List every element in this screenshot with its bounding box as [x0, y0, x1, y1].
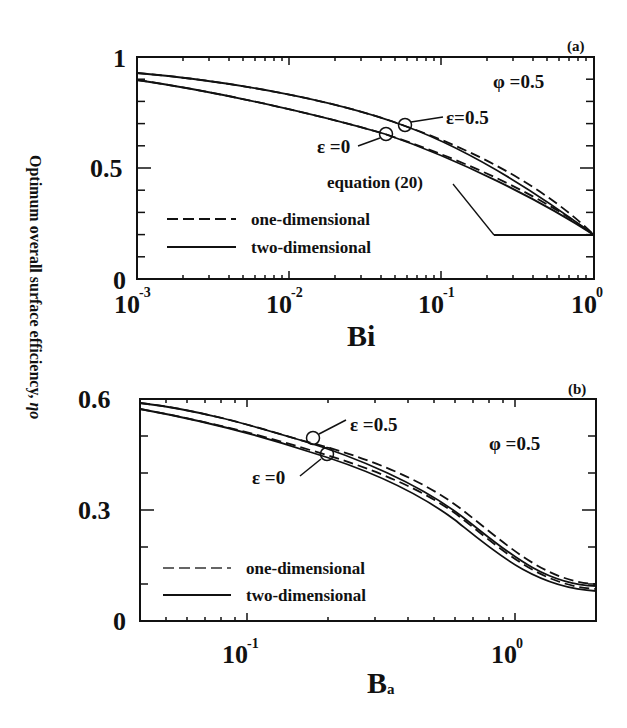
- svg-text:10: 10: [418, 290, 444, 319]
- svg-text:0: 0: [596, 285, 603, 300]
- phi-annotation-b: φ =0.5: [489, 433, 540, 454]
- svg-text:10: 10: [266, 290, 292, 319]
- y-axis-label: Optimum overall surface efficiency,ηo: [26, 155, 44, 419]
- svg-text:10: 10: [222, 640, 248, 669]
- panel-label-b: (b): [568, 381, 586, 398]
- markers-b: [300, 420, 346, 476]
- svg-text:-2: -2: [291, 285, 303, 300]
- y-tick-label: 0.3: [78, 496, 111, 525]
- phi-annotation-a: φ =0.5: [493, 71, 544, 92]
- y-ticks-b: [140, 436, 596, 584]
- legend-label-1d: one-dimensional: [251, 210, 370, 229]
- figure: Optimum overall surface efficiency,ηo (a…: [0, 0, 627, 728]
- svg-text:10: 10: [491, 640, 517, 669]
- legend-b: one-dimensional two-dimensional: [163, 559, 366, 605]
- equation-20-leader: [453, 184, 494, 235]
- chart-a: (a): [90, 38, 603, 352]
- x-axis-label-a: Bi: [347, 319, 375, 352]
- x-axis-label-b: Ba: [367, 666, 395, 699]
- y-tick-label: 1: [113, 44, 126, 73]
- svg-text:10: 10: [571, 290, 597, 319]
- y-tick-label: 0: [113, 607, 126, 636]
- markers-a: [358, 117, 443, 146]
- svg-text:10: 10: [114, 290, 140, 319]
- x-tick-labels-a: 10 -3 10 -2 10 -1 10 0: [114, 285, 603, 319]
- equation-annotation: equation (20): [327, 173, 423, 192]
- chart-b: (b) 0.6 0.3 0 10 -1: [78, 381, 596, 699]
- y-ticks-a: [137, 79, 594, 257]
- y-tick-label: 0.5: [90, 154, 123, 183]
- eps05-annotation-a: ε=0.5: [446, 107, 489, 128]
- eps05-annotation-b: ε =0.5: [350, 414, 397, 435]
- eps0-annotation-b: ε =0: [252, 467, 285, 488]
- y-tick-label: 0.6: [78, 385, 111, 414]
- svg-text:-1: -1: [443, 285, 455, 300]
- x-tick-labels-b: 10 -1 10 0: [222, 636, 523, 669]
- marker-eps05: [307, 432, 320, 445]
- svg-text:-3: -3: [139, 285, 151, 300]
- legend-a: one-dimensional two-dimensional: [167, 210, 371, 257]
- svg-text:0: 0: [516, 636, 523, 651]
- legend-label-1d: one-dimensional: [246, 559, 365, 578]
- eps0-annotation-a: ε =0: [317, 136, 350, 157]
- panel-label-a: (a): [567, 38, 585, 55]
- legend-label-2d: two-dimensional: [251, 238, 371, 257]
- legend-label-2d: two-dimensional: [246, 586, 366, 605]
- svg-text:-1: -1: [247, 636, 259, 651]
